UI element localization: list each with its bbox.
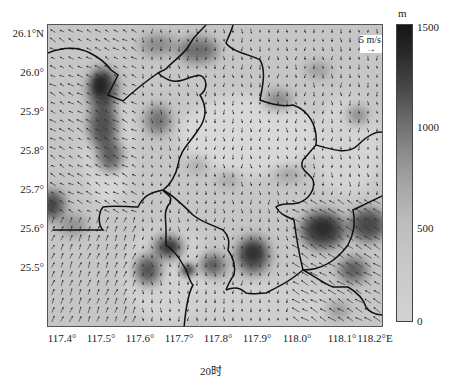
colorbar-unit: m xyxy=(398,7,407,19)
colorbar-tick: 1500 xyxy=(417,21,439,33)
x-tick-label: 117.4° xyxy=(48,332,77,344)
wind-scale-legend: 5 m/s → xyxy=(360,35,382,53)
colorbar-tick: 0 xyxy=(417,315,423,327)
colorbar-tick: 500 xyxy=(417,222,434,234)
y-tick-label: 25.9° xyxy=(20,105,44,117)
terrain-layer xyxy=(48,25,383,327)
y-tick-label: 25.5° xyxy=(20,261,44,273)
elevation-colorbar xyxy=(396,24,413,322)
x-tick-label: 118.1° xyxy=(328,332,357,344)
x-tick-label: 117.6° xyxy=(126,332,155,344)
terrain-wind-map xyxy=(47,24,383,327)
y-tick-label: 25.6° xyxy=(20,222,44,234)
arrow-right-icon: → xyxy=(360,45,382,53)
y-tick-label: 25.8° xyxy=(20,144,44,156)
x-tick-label: 117.9° xyxy=(243,332,272,344)
x-tick-label: 118.2°E xyxy=(357,332,392,344)
colorbar-tick: 1000 xyxy=(417,121,439,133)
y-tick-label: 25.7° xyxy=(20,183,44,195)
time-caption: 20时 xyxy=(200,362,222,378)
x-tick-label: 117.7° xyxy=(165,332,194,344)
y-tick-label: 26.0° xyxy=(20,66,44,78)
y-tick-label: 26.1°N xyxy=(12,27,44,39)
x-tick-label: 117.8° xyxy=(204,332,233,344)
x-tick-label: 117.5° xyxy=(87,332,116,344)
x-tick-label: 118.0° xyxy=(283,332,312,344)
